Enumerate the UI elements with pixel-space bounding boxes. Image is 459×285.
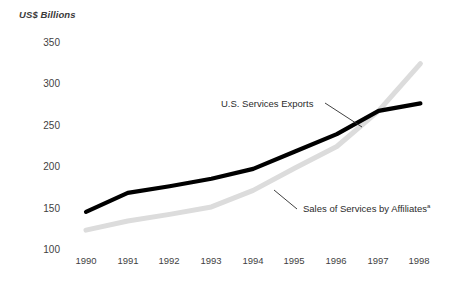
services-trade-line-chart: US$ Billions 350 300 250 200 150 100 199… bbox=[0, 0, 459, 285]
leader-line-exports bbox=[325, 103, 362, 127]
series-label-affiliates-text: Sales of Services by Affiliates bbox=[303, 203, 427, 214]
series-label-affiliates-footnote: a bbox=[427, 203, 430, 209]
series-label-affiliates: Sales of Services by Affiliatesa bbox=[303, 203, 430, 214]
leader-line-affiliates bbox=[274, 190, 297, 209]
series-label-exports: U.S. Services Exports bbox=[221, 98, 313, 109]
plot-area bbox=[0, 0, 459, 285]
